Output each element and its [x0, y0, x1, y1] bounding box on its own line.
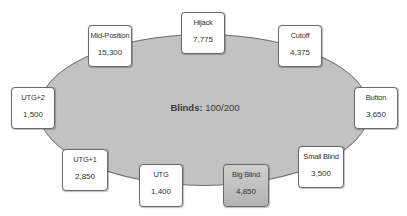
seat-stack: 15,300	[89, 48, 131, 57]
seat-stack: 1,500	[12, 110, 54, 119]
blinds-title: Blinds:	[170, 102, 202, 113]
seat-stack: 4,850	[224, 187, 268, 196]
seat-name: Small Blind	[299, 152, 343, 161]
seat-small-blind: Small Blind 3,500	[298, 146, 344, 188]
seat-utg-plus-1: UTG+1 2,850	[62, 149, 108, 191]
seat-stack: 4,375	[279, 48, 321, 57]
seat-stack: 3,500	[299, 169, 343, 178]
seat-stack: 3,650	[355, 110, 397, 119]
seat-hijack: Hijack 7,775	[181, 12, 225, 54]
seat-button: Button 3,650	[354, 87, 398, 129]
blinds-label: Blinds: 100/200	[150, 102, 260, 113]
seat-name: Button	[355, 93, 397, 102]
seat-name: Mid-Position	[89, 31, 131, 40]
seat-name: UTG+2	[12, 93, 54, 102]
blinds-value: 100/200	[205, 102, 239, 113]
seat-name: UTG+1	[63, 155, 107, 164]
seat-mid-position: Mid-Position 15,300	[88, 25, 132, 67]
seat-big-blind: Big Blind 4,850	[223, 164, 269, 207]
seat-utg-plus-2: UTG+2 1,500	[11, 87, 55, 129]
seat-name: Hijack	[182, 18, 224, 27]
seat-name: Cutoff	[279, 31, 321, 40]
seat-stack: 2,850	[63, 172, 107, 181]
seat-stack: 7,775	[182, 35, 224, 44]
seat-name: Big Blind	[224, 170, 268, 179]
seat-stack: 1,400	[140, 187, 182, 196]
seat-utg: UTG 1,400	[139, 164, 183, 207]
seat-cutoff: Cutoff 4,375	[278, 25, 322, 67]
seat-name: UTG	[140, 170, 182, 179]
